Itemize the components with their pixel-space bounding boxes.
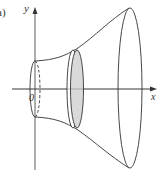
solid-of-revolution-figure <box>0 0 159 171</box>
upper-boundary-curve <box>35 8 129 61</box>
lower-boundary-curve <box>35 117 129 168</box>
y-axis-arrow-icon <box>33 7 38 14</box>
right-end-ellipse <box>118 8 142 168</box>
